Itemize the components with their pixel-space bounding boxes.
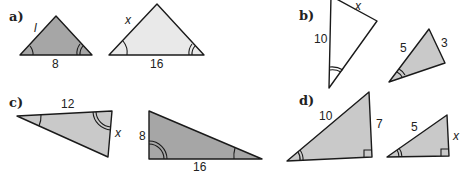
part-c-label: c) — [9, 95, 23, 110]
triangle-b2: 5 3 — [389, 29, 448, 82]
triangle-a1: l 8 — [20, 16, 92, 71]
side-label-l: l — [34, 21, 37, 35]
triangle-d2: 5 x — [387, 115, 460, 157]
part-a-label: a) — [9, 9, 24, 24]
triangle-a2: x 16 — [109, 4, 204, 71]
part-d: d) 10 7 5 x — [287, 92, 460, 161]
part-c: c) 12 x 8 16 — [9, 95, 262, 173]
triangle-c2: 8 16 — [139, 111, 262, 173]
side-label-16: 16 — [150, 57, 164, 71]
side-label-12: 12 — [61, 97, 75, 111]
side-label-x: x — [452, 129, 460, 143]
part-b: b) 10 x 5 3 — [299, 0, 448, 88]
part-b-label: b) — [299, 8, 314, 23]
side-label-3: 3 — [441, 36, 448, 50]
part-d-label: d) — [299, 93, 314, 108]
triangle-c1: 12 x — [17, 97, 122, 157]
triangle-b1: 10 x — [314, 0, 377, 88]
side-label-16: 16 — [193, 160, 207, 173]
side-label-7: 7 — [376, 117, 383, 131]
side-label-x: x — [124, 13, 132, 27]
side-label-8: 8 — [52, 57, 59, 71]
side-label-8: 8 — [139, 129, 146, 143]
part-a: a) l 8 x 16 — [9, 4, 204, 71]
similar-triangles-figure: a) l 8 x 16 b) 10 x — [0, 0, 467, 173]
side-label-x: x — [114, 126, 122, 140]
side-label-5: 5 — [400, 41, 407, 55]
side-label-10: 10 — [319, 109, 333, 123]
side-label-x: x — [354, 0, 362, 13]
side-label-10: 10 — [314, 32, 328, 46]
side-label-5: 5 — [411, 120, 418, 134]
